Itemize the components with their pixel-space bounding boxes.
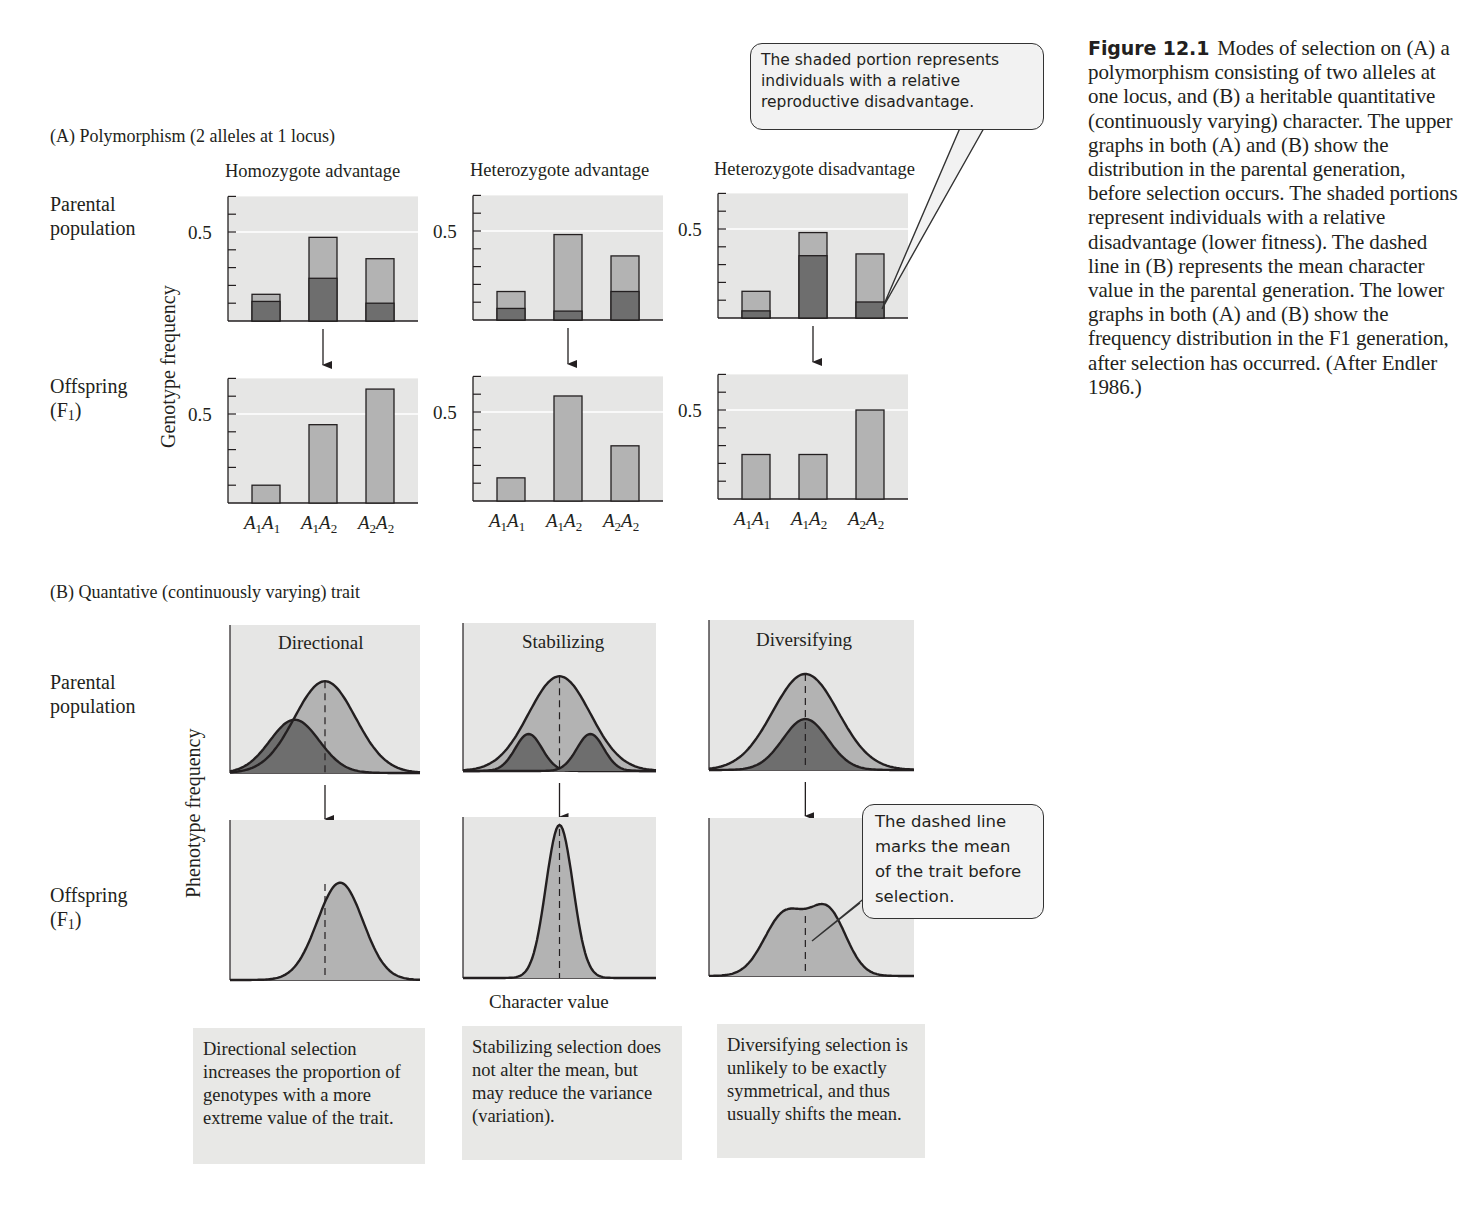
figure-caption: Figure 12.1Modes of selection on (A) a p… <box>1088 36 1459 399</box>
callout-shaded-portion: The shaded portion represents individual… <box>750 43 1044 130</box>
note-stabilizing: Stabilizing selection does not alter the… <box>462 1026 682 1160</box>
figure-caption-text: Modes of selection on (A) a polymorphism… <box>1088 36 1458 399</box>
note-directional: Directional selection increases the prop… <box>193 1028 425 1164</box>
note-diversifying: Diversifying selection is unlikely to be… <box>717 1024 925 1158</box>
callout-dashed-line: The dashed line marks the mean of the tr… <box>862 804 1044 919</box>
figure-number: Figure 12.1 <box>1088 37 1209 59</box>
callout-top-pointer <box>882 128 984 309</box>
